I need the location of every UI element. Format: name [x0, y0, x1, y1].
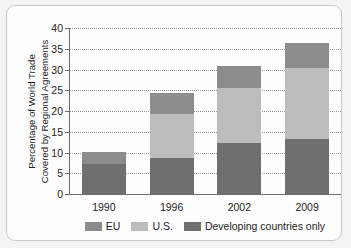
plot-area: 0510152025303540 1990199620022009	[69, 28, 341, 195]
y-axis-tick-label: 20	[51, 106, 63, 117]
legend-item: U.S.	[131, 220, 172, 232]
bar-1996	[150, 93, 194, 194]
legend-swatch	[85, 222, 102, 231]
bar-segment	[82, 152, 126, 164]
x-axis-label: 1996	[160, 201, 183, 213]
bar-2002	[217, 66, 261, 194]
y-axis-tick-label: 0	[57, 189, 63, 200]
x-axis-label: 2009	[295, 201, 318, 213]
bar-segment	[285, 139, 329, 194]
y-axis-tick-label: 40	[51, 23, 63, 34]
y-axis-tick-label: 5	[57, 168, 63, 179]
y-axis-tick	[65, 132, 70, 133]
y-axis-tick-label: 10	[51, 147, 63, 158]
y-axis-tick	[65, 173, 70, 174]
y-axis-title-line-2: Covered by Regional Agreements	[39, 40, 51, 183]
legend-item: Developing countries only	[184, 220, 325, 232]
legend-label: EU	[106, 220, 121, 232]
y-axis-tick-label: 30	[51, 64, 63, 75]
legend-item: EU	[85, 220, 121, 232]
y-axis-tick	[65, 49, 70, 50]
chart-figure: Percentage of World Trade Covered by Reg…	[0, 0, 351, 248]
legend-label: U.S.	[152, 220, 172, 232]
x-axis-label: 2002	[228, 201, 251, 213]
y-axis-tick	[65, 194, 70, 195]
chart-card: Percentage of World Trade Covered by Reg…	[6, 5, 342, 241]
x-axis-label: 1990	[92, 201, 115, 213]
chart-legend: EUU.S.Developing countries only	[69, 220, 341, 232]
bar-segment	[217, 143, 261, 194]
y-axis-title-line-1: Percentage of World Trade	[26, 54, 38, 168]
bar-segment	[150, 114, 194, 158]
bar-2009	[285, 43, 329, 194]
y-axis-tick-label: 35	[51, 44, 63, 55]
legend-swatch	[131, 222, 148, 231]
y-axis-tick-label: 25	[51, 85, 63, 96]
y-axis-tick-label: 15	[51, 127, 63, 138]
bar-segment	[217, 66, 261, 88]
y-axis-tick	[65, 90, 70, 91]
gridline	[70, 28, 341, 29]
bar-segment	[285, 43, 329, 69]
y-axis-tick	[65, 153, 70, 154]
bar-segment	[150, 93, 194, 114]
y-axis-tick	[65, 111, 70, 112]
bar-segment	[82, 164, 126, 194]
bar-1990	[82, 152, 126, 194]
y-axis-tick	[65, 70, 70, 71]
y-axis-title: Percentage of World Trade Covered by Reg…	[21, 28, 55, 195]
bar-segment	[285, 68, 329, 139]
bar-segment	[217, 88, 261, 142]
bar-segment	[150, 158, 194, 194]
legend-swatch	[184, 222, 201, 231]
legend-label: Developing countries only	[205, 220, 325, 232]
y-axis-tick	[65, 28, 70, 29]
